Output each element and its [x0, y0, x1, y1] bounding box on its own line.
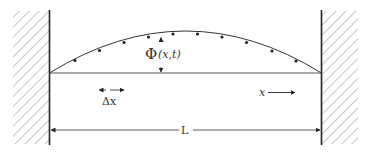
string-point	[171, 32, 174, 35]
string-point	[245, 41, 248, 44]
string-point	[196, 32, 199, 35]
string-point	[220, 35, 223, 38]
phi-label: Φ	[145, 45, 157, 63]
right-wall-hatching	[322, 11, 358, 144]
string-point	[73, 59, 76, 62]
string-curve	[50, 31, 322, 73]
string-point	[122, 41, 125, 44]
string-point	[147, 35, 150, 38]
length-label: L	[181, 124, 189, 137]
string-point	[294, 59, 297, 62]
right-wall	[322, 10, 359, 145]
string-diagram: Φ (x,t) Δx x L	[0, 0, 369, 156]
delta-x-label: Δx	[102, 95, 117, 108]
phi-args-label: (x,t)	[158, 48, 181, 61]
x-direction-label: x	[259, 86, 266, 99]
string-point	[270, 49, 273, 52]
left-wall	[13, 10, 50, 145]
string-point	[98, 49, 101, 52]
left-wall-hatching	[13, 11, 49, 144]
string-points	[73, 32, 297, 62]
